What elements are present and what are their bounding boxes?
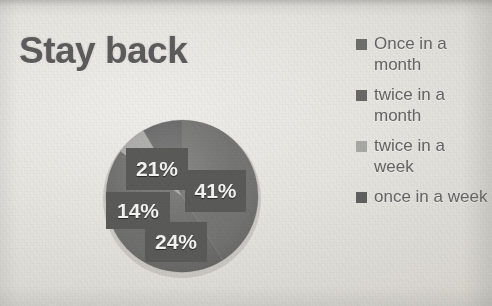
chart-title: Stay back (19, 30, 187, 72)
legend-item-label: twice in a week (374, 135, 488, 177)
legend-swatch-icon (356, 192, 367, 203)
legend-item-twice-in-a-month: twice in a month (356, 84, 488, 126)
pie-data-label: 41% (185, 170, 246, 212)
legend-item-twice-in-a-week: twice in a week (356, 135, 488, 177)
legend-item-once-in-a-month: Once in a month (356, 33, 488, 75)
chart-image: 21% 41% 14% 24% Stay back Once in a mont… (0, 0, 492, 306)
legend-swatch-icon (356, 39, 367, 50)
legend-swatch-icon (356, 90, 367, 101)
legend-item-label: Once in a month (374, 33, 488, 75)
pie-data-label: 21% (126, 148, 188, 190)
legend-item-once-in-a-week: once in a week (356, 186, 488, 207)
pie-data-label: 24% (145, 222, 207, 262)
legend-item-label: twice in a month (374, 84, 488, 126)
legend-item-label: once in a week (374, 186, 487, 207)
legend-swatch-icon (356, 141, 367, 152)
chart-legend: Once in a month twice in a month twice i… (356, 33, 488, 216)
